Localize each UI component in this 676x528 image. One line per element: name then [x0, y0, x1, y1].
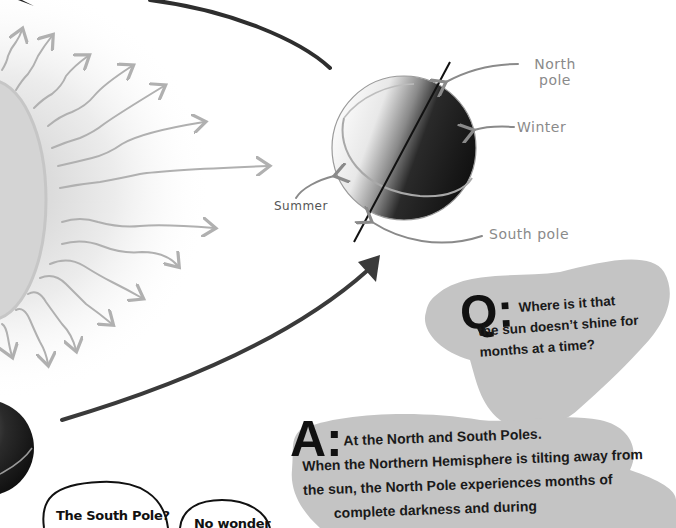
label-north-pole: North pole — [526, 56, 584, 88]
label-north-line1: North — [526, 56, 584, 72]
label-south-pole: South pole — [489, 226, 569, 242]
label-north-line2: pole — [526, 72, 584, 88]
speech-bubble-2-text: No wonder — [194, 516, 270, 528]
answer-text: At the North and South Poles. When the N… — [301, 416, 676, 526]
label-winter: Winter — [517, 119, 566, 135]
question-text: Where is it that the sun doesn’t shine f… — [476, 287, 660, 362]
sun — [0, 0, 420, 420]
label-summer: Summer — [274, 198, 328, 214]
winter-pointer — [474, 126, 514, 130]
speech-bubble-1-text: The South Pole? — [56, 508, 170, 523]
north-pole-pointer — [446, 64, 518, 82]
